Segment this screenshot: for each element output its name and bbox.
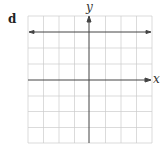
- axes: [28, 16, 151, 143]
- coordinate-grid: [0, 0, 162, 149]
- line-y-equals-3: [29, 31, 151, 34]
